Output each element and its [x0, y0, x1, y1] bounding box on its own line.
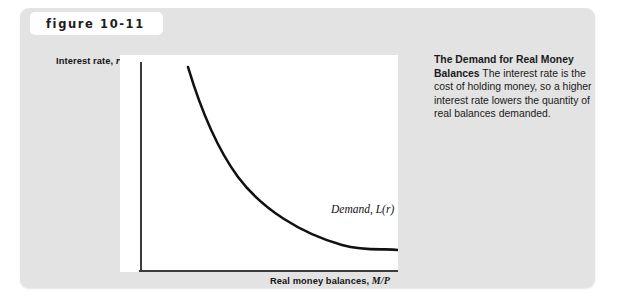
- y-axis-label: Interest rate, r: [56, 55, 120, 66]
- figure-number-tag: figure 10-11: [30, 12, 163, 35]
- figure-number-label: figure 10-11: [30, 17, 145, 31]
- demand-curve: [188, 67, 398, 250]
- y-axis-label-text: Interest rate,: [56, 56, 113, 66]
- x-axis-label-symbol: M/P: [372, 275, 390, 286]
- x-axis-label-text: Real money balances,: [270, 276, 369, 286]
- x-axis-label: Real money balances, M/P: [270, 275, 390, 286]
- plot-area: [120, 55, 398, 272]
- demand-curve-label: Demand, L(r): [331, 203, 394, 215]
- figure-container: figure 10-11 Interest rate, r Demand, L(…: [0, 0, 626, 308]
- figure-caption: The Demand for Real Money Balances The i…: [434, 53, 594, 121]
- plot-svg: [120, 55, 398, 272]
- figure-panel: figure 10-11 Interest rate, r Demand, L(…: [20, 8, 595, 288]
